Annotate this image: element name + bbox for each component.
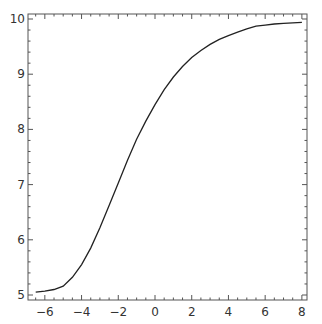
x-tick-label: −2 <box>109 305 127 319</box>
y-tick-label: 7 <box>17 178 25 192</box>
x-tick-label: 6 <box>261 305 269 319</box>
x-tick-label: −6 <box>36 305 54 319</box>
x-tick-label: 0 <box>151 305 159 319</box>
x-tick-label: −4 <box>73 305 91 319</box>
y-tick-label: 9 <box>17 67 25 81</box>
line-chart: −6−4−2024685678910 <box>0 0 322 324</box>
y-tick-label: 8 <box>17 122 25 136</box>
x-tick-label: 8 <box>298 305 306 319</box>
data-line <box>36 22 302 292</box>
x-tick-label: 2 <box>188 305 196 319</box>
y-tick-label: 5 <box>17 288 25 302</box>
axis-tick-labels: −6−4−2024685678910 <box>10 12 306 319</box>
y-tick-label: 10 <box>10 12 25 26</box>
axis-ticks <box>28 14 307 300</box>
plot-frame <box>28 14 307 300</box>
y-tick-label: 6 <box>17 233 25 247</box>
x-tick-label: 4 <box>225 305 233 319</box>
